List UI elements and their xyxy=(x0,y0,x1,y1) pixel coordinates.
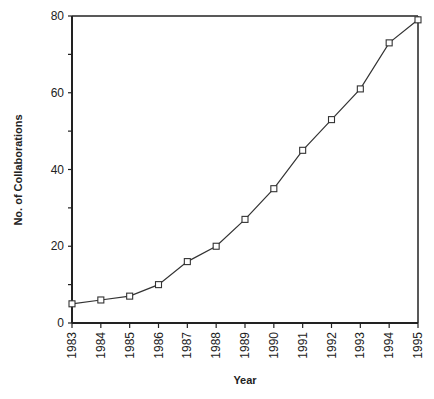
data-point-marker xyxy=(242,216,248,222)
x-tick-label: 1986 xyxy=(152,332,166,359)
x-tick-label: 1983 xyxy=(65,332,79,359)
y-axis-title: No. of Collaborations xyxy=(12,114,24,225)
y-tick-label: 40 xyxy=(51,163,65,177)
data-point-marker xyxy=(357,86,363,92)
x-tick-label: 1989 xyxy=(238,332,252,359)
data-point-marker xyxy=(300,147,306,153)
data-point-marker xyxy=(156,282,162,288)
x-tick-label: 1987 xyxy=(180,332,194,359)
data-point-marker xyxy=(184,259,190,265)
data-point-marker xyxy=(415,17,421,23)
line-chart: 020406080 198319841985198619871988198919… xyxy=(0,0,434,399)
y-tick-label: 20 xyxy=(51,239,65,253)
x-tick-label: 1995 xyxy=(411,332,425,359)
y-tick-label: 60 xyxy=(51,86,65,100)
x-tick-label: 1991 xyxy=(296,332,310,359)
series-line xyxy=(72,20,418,304)
data-point-marker xyxy=(271,186,277,192)
y-axis-ticks: 020406080 xyxy=(51,9,72,330)
data-series xyxy=(69,17,421,307)
x-tick-label: 1994 xyxy=(382,332,396,359)
x-tick-label: 1993 xyxy=(353,332,367,359)
plot-frame xyxy=(72,16,418,323)
data-point-marker xyxy=(127,293,133,299)
x-tick-label: 1988 xyxy=(209,332,223,359)
x-tick-label: 1984 xyxy=(94,332,108,359)
data-point-marker xyxy=(386,40,392,46)
x-tick-label: 1985 xyxy=(123,332,137,359)
x-tick-label: 1990 xyxy=(267,332,281,359)
data-point-marker xyxy=(69,301,75,307)
data-point-marker xyxy=(213,243,219,249)
data-point-marker xyxy=(329,117,335,123)
y-tick-label: 80 xyxy=(51,9,65,23)
x-tick-label: 1992 xyxy=(325,332,339,359)
x-axis-title: Year xyxy=(233,374,257,386)
y-tick-label: 0 xyxy=(57,316,64,330)
data-point-marker xyxy=(98,297,104,303)
x-axis-ticks: 1983198419851986198719881989199019911992… xyxy=(65,323,425,359)
